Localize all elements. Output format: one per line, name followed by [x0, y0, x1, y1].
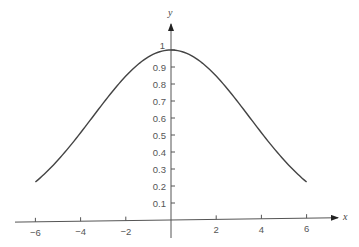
ticks: −6−4−22460.10.20.30.40.50.60.70.80.91 [30, 40, 309, 238]
y-tick-label: 0.8 [153, 79, 166, 90]
y-axis-label: y [167, 7, 173, 18]
y-tick-label: 0.1 [153, 198, 166, 209]
x-axis-label: x [342, 211, 348, 222]
y-tick-label: 0.5 [153, 130, 166, 141]
x-tick-label: −2 [120, 226, 131, 237]
axes [15, 24, 338, 238]
x-axis [15, 218, 338, 222]
x-tick-label: −6 [30, 227, 41, 238]
y-tick-label: 0.7 [153, 96, 166, 107]
bell-curve-chart: −6−4−22460.10.20.30.40.50.60.70.80.91 x … [0, 0, 359, 247]
y-tick-label: 0.9 [153, 62, 166, 73]
y-tick-label: 1 [160, 40, 165, 51]
x-tick-label: −4 [75, 226, 86, 237]
x-tick-label: 6 [304, 223, 309, 234]
y-tick-label: 0.4 [153, 147, 166, 158]
x-tick-label: 2 [214, 224, 219, 235]
y-tick-label: 0.3 [153, 164, 166, 175]
x-tick-label: 4 [259, 224, 264, 235]
y-tick-label: 0.2 [153, 181, 166, 192]
y-tick-label: 0.6 [153, 113, 166, 124]
